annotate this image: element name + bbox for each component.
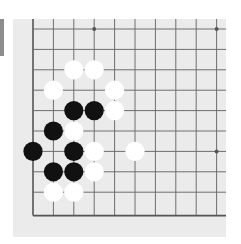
- star-point: [92, 27, 96, 31]
- white-stone[interactable]: [85, 162, 104, 181]
- black-stone[interactable]: [85, 101, 104, 120]
- white-stone[interactable]: [105, 81, 124, 100]
- white-stone[interactable]: [105, 101, 124, 120]
- go-board[interactable]: [13, 19, 226, 237]
- white-stone[interactable]: [125, 142, 144, 161]
- black-stone[interactable]: [64, 162, 83, 181]
- white-stone[interactable]: [85, 142, 104, 161]
- black-stone[interactable]: [44, 162, 63, 181]
- white-stone[interactable]: [64, 183, 83, 202]
- side-panel-tab[interactable]: [0, 19, 4, 56]
- star-point: [215, 27, 219, 31]
- white-stone[interactable]: [44, 81, 63, 100]
- white-stone[interactable]: [64, 60, 83, 79]
- white-stone[interactable]: [85, 60, 104, 79]
- white-stone[interactable]: [44, 183, 63, 202]
- black-stone[interactable]: [23, 142, 42, 161]
- black-stone[interactable]: [64, 142, 83, 161]
- white-stone[interactable]: [64, 121, 83, 140]
- black-stone[interactable]: [44, 121, 63, 140]
- board-grid[interactable]: [13, 19, 226, 237]
- star-point: [215, 149, 219, 153]
- black-stone[interactable]: [64, 101, 83, 120]
